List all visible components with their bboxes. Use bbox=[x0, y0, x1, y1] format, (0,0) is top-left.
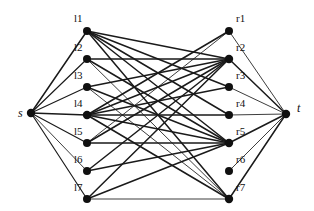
node-s bbox=[27, 109, 35, 117]
label-l2: l2 bbox=[74, 41, 83, 53]
label-r4: r4 bbox=[236, 97, 246, 109]
label-s: s bbox=[18, 106, 23, 120]
match-edge-l6-r5 bbox=[87, 143, 229, 171]
label-l7: l7 bbox=[74, 181, 83, 193]
node-r3 bbox=[225, 83, 233, 91]
node-r1 bbox=[225, 27, 233, 35]
match-edge-l1-r2 bbox=[87, 31, 229, 59]
node-l7 bbox=[83, 195, 91, 203]
label-r3: r3 bbox=[236, 69, 246, 81]
node-l2 bbox=[83, 55, 91, 63]
graph-canvas: stl1l2l3l4l5l6l7r1r2r3r4r5r6r7 bbox=[0, 0, 314, 211]
node-r6 bbox=[225, 167, 233, 175]
label-l3: l3 bbox=[74, 69, 83, 81]
bipartite-graph-figure: stl1l2l3l4l5l6l7r1r2r3r4r5r6r7 bbox=[0, 0, 314, 211]
node-l1 bbox=[83, 27, 91, 35]
label-l4: l4 bbox=[74, 97, 83, 109]
label-r7: r7 bbox=[236, 181, 246, 193]
node-r4 bbox=[225, 111, 233, 119]
label-r5: r5 bbox=[236, 125, 246, 137]
label-l6: l6 bbox=[74, 153, 83, 165]
source-edge-s-l4 bbox=[31, 113, 87, 115]
label-r2: r2 bbox=[236, 41, 245, 53]
node-t bbox=[282, 110, 290, 118]
label-r1: r1 bbox=[236, 12, 245, 24]
node-l5 bbox=[83, 139, 91, 147]
match-edge-l7-r5 bbox=[87, 143, 229, 199]
label-r6: r6 bbox=[236, 153, 246, 165]
label-l1: l1 bbox=[74, 12, 83, 24]
node-l3 bbox=[83, 83, 91, 91]
edge-layer bbox=[31, 31, 286, 199]
node-l6 bbox=[83, 167, 91, 175]
label-t: t bbox=[297, 101, 301, 115]
node-r5 bbox=[225, 139, 233, 147]
label-l5: l5 bbox=[74, 125, 83, 137]
node-r7 bbox=[225, 195, 233, 203]
node-r2 bbox=[225, 55, 233, 63]
node-l4 bbox=[83, 111, 91, 119]
sink-edge-r4-t bbox=[229, 114, 286, 115]
